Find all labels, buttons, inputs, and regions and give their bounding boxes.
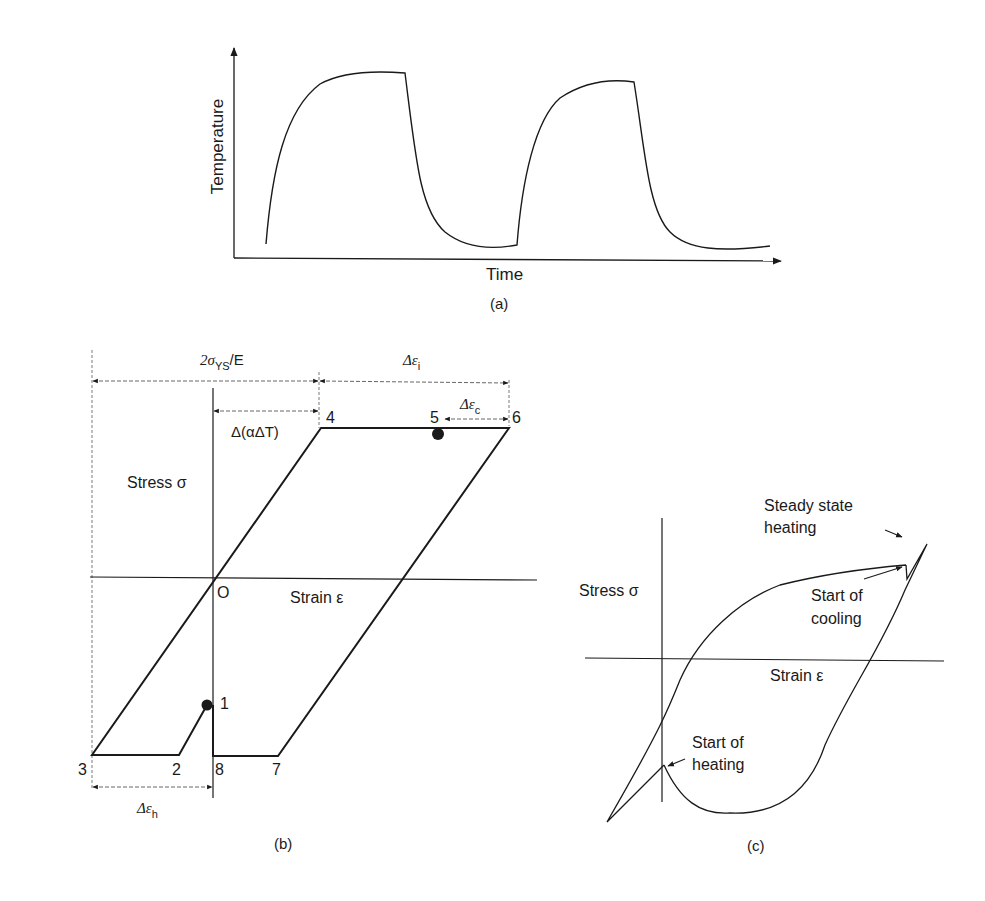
dim-delta-eps-i-line [320,381,508,383]
panel-a-caption: (a) [490,296,508,311]
figure-canvas [0,0,985,901]
origin-label: O [217,585,229,601]
point-5-label: 5 [430,410,439,426]
panel-a-temperature-curve [266,72,770,249]
arrow-start-heating [668,759,685,766]
annotation-steady-state-1: Steady state [764,498,853,514]
panel-b-x-label: Strain ε [290,590,343,606]
panel-a-x-axis [234,258,781,261]
point-1-marker [202,700,213,711]
point-2-label: 2 [172,762,181,778]
panel-b-y-label: Stress σ [127,475,187,491]
point-5-marker [432,428,444,440]
annotation-start-cooling-1: Start of [811,588,863,604]
point-7-label: 7 [272,762,281,778]
annotation-start-heating-2: heating [692,757,745,773]
panel-a-y-label: Temperature [209,99,226,194]
point-6-label: 6 [512,410,521,426]
annotation-start-heating-1: Start of [692,735,744,751]
panel-c-hysteresis [585,518,944,822]
annotation-start-cooling-2: cooling [811,611,862,627]
dim-delta-eps-i-label: Δεi [403,352,420,368]
point-4-label: 4 [326,410,335,426]
dim-delta-eps-h-label: Δεh [137,800,158,816]
panel-a-temperature-time [234,48,781,261]
arrow-steady-state [885,530,902,537]
panel-c-strain-axis [585,658,944,661]
panel-b-caption: (b) [274,836,292,851]
dim-delta-eps-c-label: Δεc [460,396,480,412]
panel-b-strain-axis [90,577,537,580]
annotation-steady-state-2: heating [764,520,817,536]
dim-alpha-label: Δ(αΔT) [231,424,279,439]
panel-c-y-label: Stress σ [579,583,639,599]
point-3-label: 3 [78,762,87,778]
panel-c-caption: (c) [747,838,765,853]
dim-2sigma-label: 2σYS/E [200,352,244,368]
panel-b-hysteresis [90,350,537,798]
point-8-label: 8 [215,762,224,778]
panel-a-x-label: Time [486,266,523,283]
panel-c-x-label: Strain ε [770,668,823,684]
point-1-label: 1 [220,696,229,712]
panel-c-loop [607,544,927,822]
